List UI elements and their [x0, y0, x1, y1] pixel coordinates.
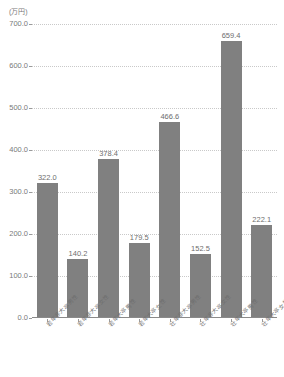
- bar[interactable]: [37, 183, 58, 318]
- bar-value-label: 140.2: [69, 249, 88, 258]
- bar-value-label: 659.4: [222, 31, 241, 40]
- bar-inner: 152.5: [190, 254, 211, 318]
- bar-inner: 322.0: [37, 183, 58, 318]
- bar-inner: 466.6: [159, 122, 180, 318]
- bar[interactable]: [159, 122, 180, 318]
- bar-inner: 378.4: [98, 159, 119, 318]
- y-axis-tick-label: 700.0: [0, 20, 28, 28]
- bar-column[interactable]: 152.5: [190, 24, 211, 318]
- bar-value-label: 222.1: [252, 215, 271, 224]
- bar-column[interactable]: 179.5: [129, 24, 150, 318]
- bars-layer: 322.0140.2378.4179.5466.6152.5659.4222.1: [32, 24, 277, 318]
- y-axis-tick-label: 200.0: [0, 230, 28, 238]
- bar[interactable]: [221, 41, 242, 318]
- bar-column[interactable]: 322.0: [37, 24, 58, 318]
- y-axis-tick-label: 100.0: [0, 272, 28, 280]
- bar-inner: 140.2: [67, 259, 88, 318]
- x-axis-labels: 若年非大卒男性若年非大卒女性若年大卒男性若年大卒女性壮年非大卒男性壮年非大卒女性…: [32, 319, 277, 377]
- bar-column[interactable]: 222.1: [251, 24, 272, 318]
- bar-value-label: 322.0: [38, 173, 57, 182]
- bar-column[interactable]: 466.6: [159, 24, 180, 318]
- y-axis-tick-label: 400.0: [0, 146, 28, 154]
- bar[interactable]: [98, 159, 119, 318]
- bar[interactable]: [190, 254, 211, 318]
- y-axis-tick-label: 500.0: [0, 104, 28, 112]
- bar-column[interactable]: 140.2: [67, 24, 88, 318]
- bar-inner: 659.4: [221, 41, 242, 318]
- y-axis-unit-label: (万円): [9, 7, 28, 16]
- y-axis-tick-label: 0.0: [0, 314, 28, 322]
- bar[interactable]: [67, 259, 88, 318]
- bar-value-label: 179.5: [130, 233, 149, 242]
- bar-column[interactable]: 659.4: [221, 24, 242, 318]
- plot-area: 0.0100.0200.0300.0400.0500.0600.0700.0 3…: [32, 24, 277, 318]
- y-axis-tick-label: 300.0: [0, 188, 28, 196]
- bar-column[interactable]: 378.4: [98, 24, 119, 318]
- bar-value-label: 466.6: [160, 112, 179, 121]
- bar-value-label: 152.5: [191, 244, 210, 253]
- bar-chart: (万円) 0.0100.0200.0300.0400.0500.0600.070…: [0, 0, 284, 377]
- y-axis-tick-label: 600.0: [0, 62, 28, 70]
- bar-value-label: 378.4: [99, 149, 118, 158]
